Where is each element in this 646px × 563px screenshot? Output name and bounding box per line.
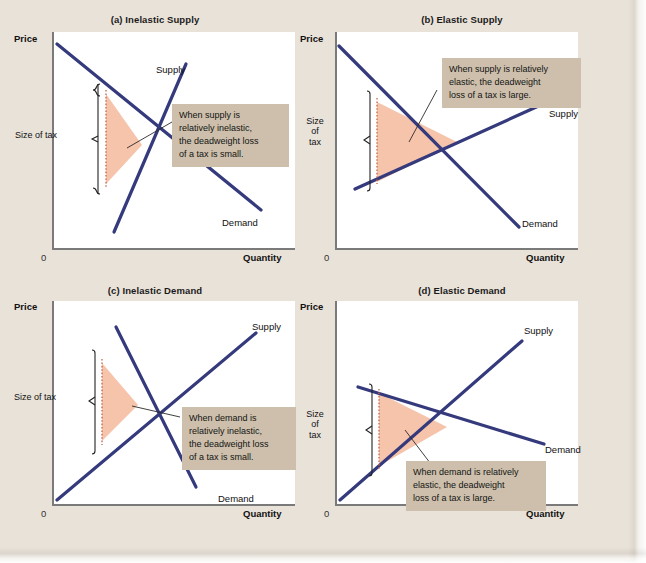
- panel-c-tax-brace-tip: [89, 397, 95, 405]
- panel-a-tax-label: Size of tax: [15, 130, 57, 140]
- panel-b-origin-label: 0: [324, 252, 329, 263]
- figure-container: (a) Inelastic Supply Price Supply D: [0, 0, 646, 563]
- panel-c-origin-label: 0: [41, 508, 46, 519]
- panel-c-demand-label: Demand: [218, 493, 254, 504]
- panel-c-y-axis-label: Price: [14, 301, 37, 312]
- panel-b-deadweight-loss-region: [377, 102, 457, 182]
- panel-d: (d) Elastic Demand Price Supply Dem: [300, 285, 630, 535]
- panel-d-tax-label-line3: tax: [302, 430, 328, 440]
- panel-c-supply-label: Supply: [252, 321, 281, 332]
- panel-c-callout: When demand is relatively inelastic, the…: [182, 407, 296, 470]
- page-edge-shadow-bottom: [0, 547, 646, 563]
- panel-d-tax-label: Size of tax: [302, 409, 328, 440]
- panel-c-x-axis-label: Quantity: [243, 508, 282, 519]
- panel-c-deadweight-loss-region: [102, 363, 138, 441]
- panel-d-tax-label-line1: Size: [302, 409, 328, 419]
- panel-c: (c) Inelastic Demand Price Supply D: [0, 285, 310, 535]
- panel-d-tax-brace-tip: [366, 426, 372, 434]
- page-edge-shadow-right: [628, 0, 646, 563]
- panel-d-y-axis-label: Price: [300, 301, 323, 312]
- panel-b: (b) Elastic Supply Price Supply Dem: [300, 14, 630, 274]
- panel-b-tax-label-line2: of: [302, 126, 328, 136]
- panel-a-tax-brace-tip: [92, 136, 98, 142]
- panel-a: (a) Inelastic Supply Price Supply D: [0, 14, 310, 274]
- panel-a-y-axis-label: Price: [14, 33, 37, 44]
- panel-a-title: (a) Inelastic Supply: [10, 14, 300, 25]
- panel-a-x-axis-label: Quantity: [243, 252, 282, 263]
- panel-c-tax-label: Size of tax: [14, 392, 56, 402]
- panel-b-demand-label: Demand: [522, 218, 558, 229]
- panel-b-y-axis-label: Price: [300, 33, 323, 44]
- panel-b-title: (b) Elastic Supply: [312, 14, 612, 25]
- panel-b-callout: When supply is relatively elastic, the d…: [442, 58, 581, 108]
- panel-b-tax-brace-tip: [364, 136, 370, 144]
- panel-a-tax-brace: [93, 84, 100, 194]
- panel-d-demand-label: Demand: [545, 444, 581, 455]
- panel-b-tax-label-line3: tax: [302, 137, 328, 147]
- panel-b-tax-label-line1: Size: [302, 116, 328, 126]
- panel-d-x-axis-label: Quantity: [526, 508, 565, 519]
- panel-d-origin-label: 0: [324, 508, 329, 519]
- panel-a-demand-label: Demand: [222, 217, 258, 228]
- panel-d-callout: When demand is relatively elastic, the d…: [406, 461, 546, 511]
- panel-b-x-axis-label: Quantity: [526, 252, 565, 263]
- panel-c-title: (c) Inelastic Demand: [10, 285, 300, 296]
- panel-b-supply-label: Supply: [549, 108, 578, 119]
- panel-a-supply-label: Supply: [156, 64, 185, 75]
- panel-a-callout: When supply is relatively inelastic, the…: [172, 104, 289, 167]
- panel-d-tax-label-line2: of: [302, 419, 328, 429]
- panel-a-origin-label: 0: [41, 252, 46, 263]
- panel-d-title: (d) Elastic Demand: [312, 285, 612, 296]
- panel-b-tax-label: Size of tax: [302, 116, 328, 147]
- panel-d-supply-label: Supply: [524, 325, 553, 336]
